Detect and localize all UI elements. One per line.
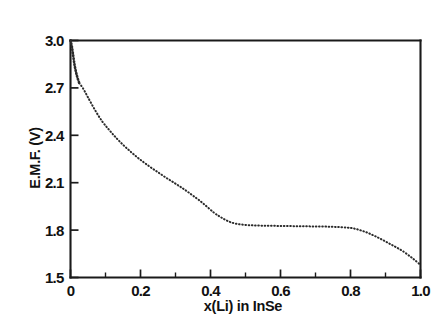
y-tick-label: 1.5 [45,269,64,286]
y-tick-label: 3.0 [45,32,64,49]
chart-background [0,0,438,330]
y-tick-label: 2.4 [45,127,65,144]
y-tick-label: 2.1 [45,174,64,191]
x-tick-label: 0.8 [341,282,360,299]
x-axis-title: x(Li) in InSe [204,298,283,314]
y-tick-label: 1.8 [45,222,64,239]
figure-page: 1.51.82.12.42.73.0 00.20.40.60.81.0 x(Li… [0,0,438,330]
x-tick-label: 0.6 [271,282,290,299]
x-tick-label: 0 [67,282,75,299]
x-tick-label: 0.4 [201,282,221,299]
emf-vs-lithium-content-chart: 1.51.82.12.42.73.0 00.20.40.60.81.0 x(Li… [0,0,438,330]
y-axis-title: E.M.F. (V) [27,127,43,189]
x-tick-label: 1.0 [411,282,430,299]
x-tick-label: 0.2 [131,282,150,299]
y-tick-label: 2.7 [45,79,64,96]
